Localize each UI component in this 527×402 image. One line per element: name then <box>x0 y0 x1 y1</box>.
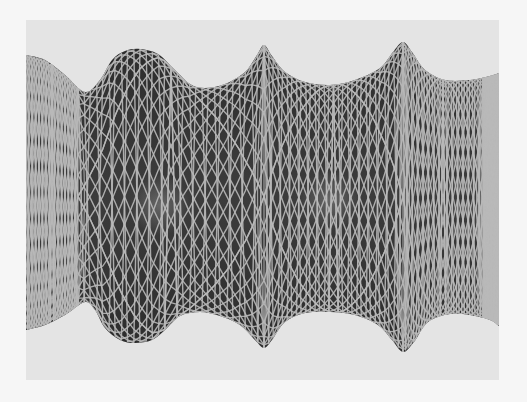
wireframe-surface-render <box>0 0 527 402</box>
surface-figure <box>0 0 527 402</box>
